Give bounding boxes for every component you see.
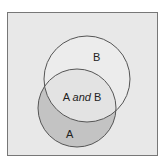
set-b-label: B bbox=[93, 51, 100, 63]
set-a-label: A bbox=[66, 128, 74, 140]
intersection-label: A and B bbox=[63, 91, 102, 103]
venn-diagram: B A and B A bbox=[0, 0, 166, 165]
